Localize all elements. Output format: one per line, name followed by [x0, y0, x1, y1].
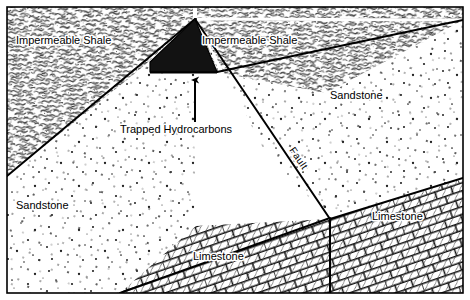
label-sandstone-right: Sandstone	[330, 89, 383, 101]
geologic-cross-section: Impermeable Shale Impermeable Shale Sand…	[0, 0, 470, 300]
label-limestone-right: Limestone	[372, 210, 423, 222]
label-sandstone-left: Sandstone	[16, 199, 69, 211]
label-limestone-left: Limestone	[193, 250, 244, 262]
label-trapped-hydrocarbons: Trapped Hydrocarbons	[120, 123, 233, 135]
label-impermeable-shale-left: Impermeable Shale	[16, 34, 111, 46]
figure-canvas: Impermeable Shale Impermeable Shale Sand…	[0, 0, 470, 300]
label-impermeable-shale-right: Impermeable Shale	[202, 34, 297, 46]
